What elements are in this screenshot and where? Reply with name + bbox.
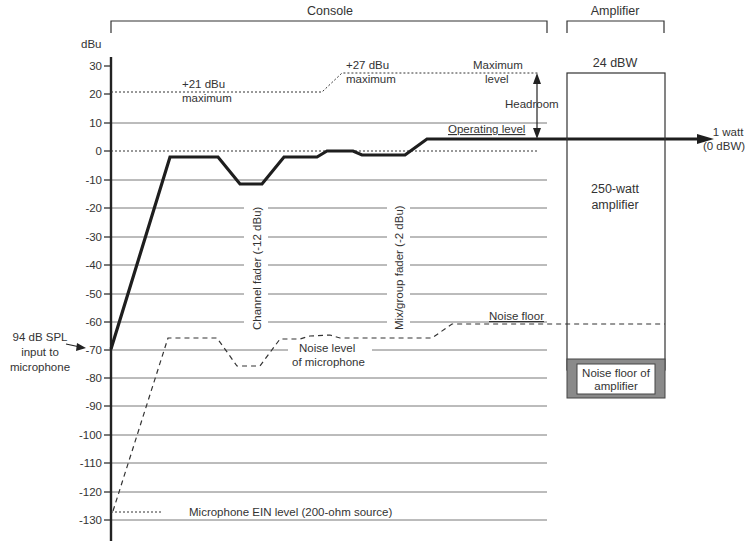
tick-label: -20 [85,202,102,214]
amplifier-bracket: Amplifier [567,4,664,33]
mic-noise-line [113,324,665,511]
axis-unit-label: dBu [81,38,101,50]
max27-label: +27 dBu [346,59,389,71]
ein-label: Microphone EIN level (200-ohm source) [189,506,392,518]
diagram-canvas: Console Amplifier dBu [0,0,749,553]
tick-label: -120 [79,486,102,498]
tick-label: -130 [79,514,102,526]
tick-label: 20 [89,88,102,100]
maximum-level-line [111,73,538,92]
tick-label: -80 [85,372,102,384]
amp-noise-floor-label: Noise floor of [582,367,651,379]
amp-max-label: 24 dBW [593,56,638,70]
amp-name-label-2: amplifier [591,198,638,212]
headroom-label: Headroom [505,98,559,110]
amp-name-label: 250-watt [591,182,639,196]
mix-fader-label: Mix/group fader (-2 dBu) [393,205,405,330]
tick-label: -50 [85,288,102,300]
maximum-level-label-2: level [485,73,509,85]
max21-label-2: maximum [182,92,232,104]
tick-label: 30 [89,60,102,72]
tick-label: 0 [96,145,102,157]
maximum-level-label: Maximum [473,59,523,71]
tick-label: -30 [85,231,102,243]
input-label-3: microphone [10,361,70,373]
tick-label: 10 [89,117,102,129]
input-label: 94 dB SPL [13,331,69,343]
amplifier-header: Amplifier [591,4,640,18]
console-bracket: Console [111,4,547,33]
noise-floor-label: Noise floor [489,310,544,322]
tick-label: -40 [85,259,102,271]
tick-label: -60 [85,316,102,328]
one-watt-label-2: (0 dBW) [703,140,745,152]
signal-level-line [111,139,700,349]
gain-structure-diagram: Console Amplifier dBu [0,0,749,553]
amp-noise-floor-label-2: amplifier [594,380,638,392]
channel-fader-label: Channel fader (-12 dBu) [251,206,263,330]
max21-label: +21 dBu [182,78,225,90]
tick-label: -100 [79,429,102,441]
max27-label-2: maximum [346,73,396,85]
amplifier-box [567,73,665,370]
tick-label: -10 [85,174,102,186]
mic-noise-label: Noise level [299,342,355,354]
tick-label: -90 [85,400,102,412]
console-header: Console [307,4,353,18]
mic-noise-label-2: of microphone [292,356,365,368]
operating-level-label: Operating level [448,123,525,135]
input-label-2: input to [21,346,59,358]
tick-label: -110 [80,457,102,469]
gridlines [111,123,547,520]
y-axis-tick-labels: 30 20 10 0 -10 -20 -30 -40 -50 -60 -70 -… [79,60,102,526]
one-watt-label: 1 watt [713,126,744,138]
tick-label: -70 [85,344,102,356]
